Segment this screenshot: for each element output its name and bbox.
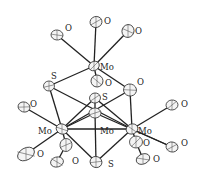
- atom-label-mo4: Mo: [138, 126, 152, 136]
- atom-label-o13: O: [181, 138, 188, 148]
- atom-label-o1: O: [65, 23, 72, 33]
- molecular-structure-diagram: MoOOOSOOSMoMoMoOOOOSOOO: [0, 0, 202, 182]
- atom-o8-ellipsoid: [15, 144, 37, 163]
- atom-mo3-ellipsoid: [89, 108, 102, 119]
- atom-label-s2: S: [102, 92, 108, 102]
- atom-label-o8: O: [37, 149, 44, 159]
- atom-label-o11: O: [143, 138, 150, 148]
- bond-Mo1-O3: [94, 31, 128, 66]
- atom-label-o3: O: [135, 26, 142, 36]
- atom-label-mo3: Mo: [100, 126, 114, 136]
- atom-label-o6: O: [30, 99, 37, 109]
- atom-label-mo2: Mo: [38, 126, 52, 136]
- atom-o13-ellipsoid: [165, 141, 179, 153]
- atom-label-o10: O: [72, 156, 79, 166]
- atom-label-s3: S: [108, 159, 114, 169]
- atom-label-o12: O: [153, 154, 160, 164]
- atom-o5-ellipsoid: [122, 83, 137, 97]
- atom-o12-ellipsoid: [135, 152, 152, 167]
- bond-S1-Mo4: [49, 86, 132, 129]
- atom-label-o7: O: [181, 99, 188, 109]
- atom-label-o4: O: [105, 78, 112, 88]
- atom-label-o5: O: [137, 77, 144, 87]
- bond-Mo1-O1: [57, 35, 94, 66]
- atom-label-mo1: Mo: [100, 62, 114, 72]
- atom-s1-ellipsoid: [43, 81, 54, 91]
- atom-o2-ellipsoid: [89, 15, 104, 29]
- atom-o4-ellipsoid: [89, 73, 105, 89]
- atom-o9-ellipsoid: [59, 138, 73, 153]
- bond-Mo1-O2: [94, 22, 96, 66]
- atom-o7-ellipsoid: [166, 99, 179, 110]
- atom-label-o2: O: [104, 16, 111, 26]
- bond-Mo3-S3: [95, 113, 96, 162]
- atom-label-s1: S: [51, 71, 57, 81]
- atom-o11-ellipsoid: [129, 136, 142, 148]
- atoms: [15, 15, 179, 169]
- atom-o10-ellipsoid: [49, 155, 64, 168]
